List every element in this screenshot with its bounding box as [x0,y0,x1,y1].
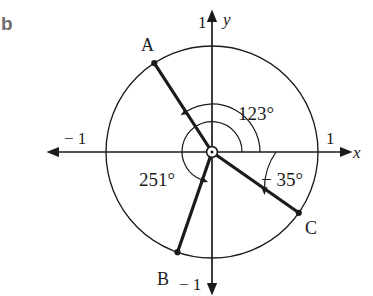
y-axis-label: y [221,10,231,29]
terminal-arm-B [178,152,213,252]
origin-center-dot [211,151,214,154]
point-label-A: A [141,35,154,55]
terminal-arm-A [154,63,212,152]
angle-label-123: 123° [238,103,274,124]
y-negative-tick-label: − 1 [179,275,201,294]
point-label-B: B [157,269,169,289]
unit-circle-diagram: y x 1 1 − 1 − 1 A B C 123° 251° − 35° [0,0,373,296]
angle-label-minus35: − 35° [261,169,303,190]
x-axis-label: x [352,143,361,162]
point-dot-B [174,249,180,255]
angle-label-251: 251° [139,169,175,190]
point-label-C: C [305,218,317,238]
x-negative-tick-label: − 1 [64,129,86,148]
point-dot-C [296,210,302,216]
x-positive-tick-label: 1 [326,129,335,148]
point-dot-A [151,60,157,66]
y-positive-tick-label: 1 [198,13,207,32]
